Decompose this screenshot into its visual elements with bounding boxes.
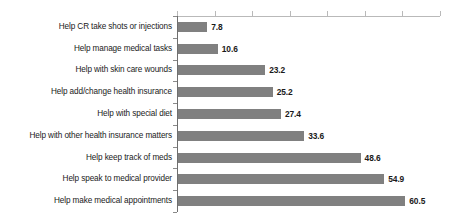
bar-row: Help with skin care wounds23.2 bbox=[0, 60, 450, 82]
bar-value-label: 33.6 bbox=[308, 131, 324, 141]
category-axis-tick bbox=[173, 212, 177, 213]
bar-row: Help with special diet27.4 bbox=[0, 103, 450, 125]
bar-track bbox=[178, 131, 304, 141]
bar-row: Help speak to medical provider54.9 bbox=[0, 168, 450, 190]
bar-value-label: 27.4 bbox=[285, 109, 301, 119]
bar-category-label: Help with other health insurance matters bbox=[29, 131, 172, 141]
bar-value-label: 48.6 bbox=[365, 153, 381, 163]
bar-track bbox=[178, 65, 265, 75]
bar-category-label: Help with skin care wounds bbox=[75, 65, 172, 75]
bar bbox=[178, 109, 281, 119]
bar-category-label: Help add/change health insurance bbox=[51, 87, 172, 97]
bar bbox=[178, 174, 384, 184]
bar-category-label: Help make medical appointments bbox=[54, 196, 172, 206]
bar-value-label: 10.6 bbox=[222, 44, 238, 54]
bar-track bbox=[178, 109, 281, 119]
bar-track bbox=[178, 44, 218, 54]
bar-track bbox=[178, 22, 207, 32]
bar-value-label: 25.2 bbox=[277, 87, 293, 97]
bar-value-label: 60.5 bbox=[409, 196, 425, 206]
bar-chart: Help CR take shots or injections7.8Help … bbox=[0, 0, 450, 223]
bar-row: Help add/change health insurance25.2 bbox=[0, 81, 450, 103]
bar-category-label: Help CR take shots or injections bbox=[59, 22, 172, 32]
bar-row: Help with other health insurance matters… bbox=[0, 125, 450, 147]
bar bbox=[178, 22, 207, 32]
bar-track bbox=[178, 87, 273, 97]
bar-row: Help manage medical tasks10.6 bbox=[0, 38, 450, 60]
bar-row: Help keep track of meds48.6 bbox=[0, 147, 450, 169]
bar-category-label: Help manage medical tasks bbox=[74, 44, 172, 54]
bar-value-label: 23.2 bbox=[269, 65, 285, 75]
bar-category-label: Help keep track of meds bbox=[86, 153, 172, 163]
bar-value-label: 54.9 bbox=[388, 174, 404, 184]
bar-rows: Help CR take shots or injections7.8Help … bbox=[0, 16, 450, 212]
bar bbox=[178, 44, 218, 54]
bar bbox=[178, 153, 361, 163]
bar-value-label: 7.8 bbox=[211, 22, 222, 32]
bar-row: Help CR take shots or injections7.8 bbox=[0, 16, 450, 38]
bar-category-label: Help speak to medical provider bbox=[63, 174, 172, 184]
bar bbox=[178, 196, 405, 206]
bar-track bbox=[178, 174, 384, 184]
bar-track bbox=[178, 196, 405, 206]
bar-track bbox=[178, 153, 361, 163]
bar bbox=[178, 87, 273, 97]
bar-category-label: Help with special diet bbox=[97, 109, 172, 119]
bar bbox=[178, 65, 265, 75]
bar-row: Help make medical appointments60.5 bbox=[0, 190, 450, 212]
bar bbox=[178, 131, 304, 141]
